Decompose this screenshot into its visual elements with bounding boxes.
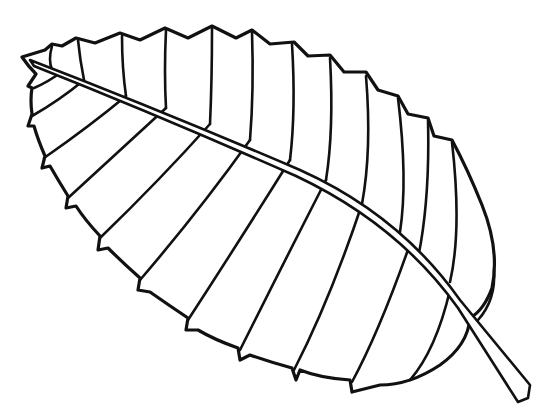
leaf-icon — [0, 0, 546, 420]
leaf-illustration: Black and white outline drawing of a ser… — [0, 0, 546, 420]
